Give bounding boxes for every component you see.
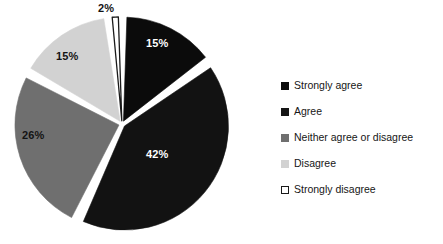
slice-label-strongly-disagree: 2% <box>98 2 114 14</box>
legend-item-agree[interactable]: Agree <box>281 100 443 123</box>
legend-item-neither-agree-or-disagree[interactable]: Neither agree or disagree <box>281 126 443 149</box>
pie-plot-area: 15% 42% 26% 15% 2% <box>0 0 265 244</box>
legend-item-label: Agree <box>294 106 322 117</box>
pie-svg <box>0 0 265 244</box>
slice-label-strongly-agree: 15% <box>146 37 168 49</box>
legend-item-disagree[interactable]: Disagree <box>281 152 443 175</box>
legend-item-label: Neither agree or disagree <box>294 132 413 143</box>
legend-item-strongly-disagree[interactable]: Strongly disagree <box>281 178 443 201</box>
chart-legend: Strongly agree Agree Neither agree or di… <box>281 74 443 204</box>
legend-swatch-icon <box>281 82 289 90</box>
legend-item-label: Strongly agree <box>294 80 362 91</box>
legend-swatch-icon <box>281 186 289 194</box>
slice-label-neither: 26% <box>22 129 44 141</box>
legend-swatch-icon <box>281 134 289 142</box>
pie-chart: 15% 42% 26% 15% 2% Strongly agree Agree … <box>0 0 443 244</box>
pie-slice-group <box>15 17 229 230</box>
legend-item-label: Strongly disagree <box>294 184 376 195</box>
legend-item-label: Disagree <box>294 158 336 169</box>
slice-label-agree: 42% <box>146 148 168 160</box>
legend-item-strongly-agree[interactable]: Strongly agree <box>281 74 443 97</box>
legend-swatch-icon <box>281 108 289 116</box>
legend-swatch-icon <box>281 160 289 168</box>
slice-label-disagree: 15% <box>56 50 78 62</box>
